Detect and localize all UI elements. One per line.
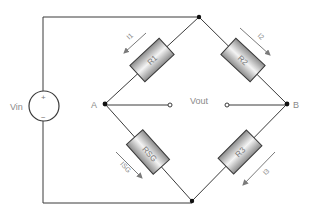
- node-top: [197, 15, 201, 19]
- node-bottom: [190, 199, 194, 203]
- vout-terminal-left: [168, 103, 172, 107]
- svg-text:ISG: ISG: [119, 160, 132, 174]
- outer-wiring: [43, 17, 199, 203]
- resistor-rsg: RSG: [126, 130, 169, 174]
- vout-label: Vout: [190, 96, 209, 106]
- source-minus: −: [41, 113, 46, 122]
- svg-text:I2: I2: [256, 32, 265, 41]
- vin-label: Vin: [10, 102, 23, 112]
- node-a-label: A: [91, 100, 97, 110]
- wheatstone-bridge-diagram: Vout A B + − Vin R1 I1 R2 I2 RSG ISG: [0, 0, 310, 213]
- svg-text:I3: I3: [261, 167, 270, 176]
- current-arrow-i1: I1: [124, 32, 146, 53]
- bridge-arms: [105, 17, 287, 201]
- source-plus: +: [41, 93, 46, 102]
- svg-text:I1: I1: [125, 32, 134, 41]
- output-leads: Vout: [105, 96, 287, 107]
- vout-terminal-right: [225, 103, 229, 107]
- voltage-source: + − Vin: [10, 91, 59, 122]
- node-b-label: B: [293, 100, 299, 110]
- node-a: [103, 102, 108, 107]
- node-b: [285, 102, 290, 107]
